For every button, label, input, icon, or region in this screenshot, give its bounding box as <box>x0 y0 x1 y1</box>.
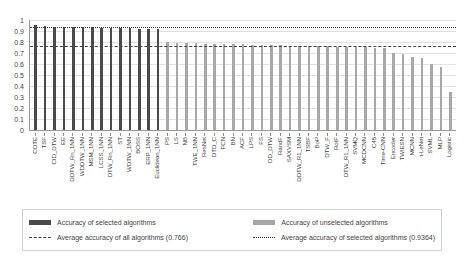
x-axis-tick-label: DTW_F <box>324 137 330 158</box>
bar-slot <box>229 20 238 130</box>
bar-slot <box>351 20 360 130</box>
y-axis-tick-label: 0.2 <box>14 105 24 112</box>
x-axis-tick-mark <box>280 133 281 136</box>
x-axis-tick-mark <box>120 133 121 136</box>
x-axis-tick-label: MCDCNN <box>361 137 367 164</box>
bar-dtw-f <box>326 46 329 130</box>
bar-slot <box>163 20 172 130</box>
x-axis-tick-label: FS <box>258 137 264 145</box>
x-axis-tick-label: WDTW_1NN <box>126 137 132 172</box>
x-axis-slot: Encoder <box>388 133 397 205</box>
bar-slot <box>182 20 191 130</box>
bar-lps <box>251 45 254 130</box>
x-axis-slot: DTW_R1_1NN <box>341 133 350 205</box>
bar-light-swatch-icon <box>253 220 275 225</box>
x-axis-tick-mark <box>110 133 111 136</box>
x-axis-tick-mark <box>242 133 243 136</box>
bar-slot <box>172 20 181 130</box>
bar-slot <box>285 20 294 130</box>
x-axis-tick-label: DDTW_R1_1NN <box>295 137 301 182</box>
bar-c45 <box>374 48 377 131</box>
bar-slot <box>436 20 445 130</box>
x-axis-tick-label: LPS <box>248 137 254 148</box>
average-all-line <box>30 46 456 47</box>
x-axis-slot: ST <box>115 133 124 205</box>
x-axis-slot: DTW_F <box>322 133 331 205</box>
bar-wddtw-1nn <box>82 27 85 130</box>
x-axis-tick-label: ACF <box>239 137 245 149</box>
x-axis-tick-label: SAXVSM <box>286 137 292 162</box>
x-axis-tick-mark <box>63 133 64 136</box>
bar-cid-dtw <box>53 27 56 130</box>
bar-slot <box>257 20 266 130</box>
bar-slot <box>31 20 40 130</box>
x-axis-tick-mark <box>374 133 375 136</box>
y-axis-tick-label: 0.3 <box>14 94 24 101</box>
x-axis-tick-mark <box>35 133 36 136</box>
x-axis-tick-label: DTW_R1_1NN <box>342 137 348 177</box>
x-axis-slot: MCNN <box>407 133 416 205</box>
y-axis-tick-label: 0.7 <box>14 50 24 57</box>
x-axis: COTETSFCID_DTWEEDDTW_Rn_1NNWDDTW_1NNMSM_… <box>29 133 455 205</box>
bar-slot <box>427 20 436 130</box>
bar-slot <box>323 20 332 130</box>
x-axis-tick-label: ERP_1NN <box>145 137 151 165</box>
x-axis-tick-mark <box>138 133 139 136</box>
x-axis-tick-label: RotF <box>333 137 339 150</box>
x-axis-tick-label: TSF <box>41 137 47 148</box>
bar-slot <box>238 20 247 130</box>
x-axis-tick-label: LCSS_1NN <box>97 137 103 168</box>
x-axis-slot: MLP <box>435 133 444 205</box>
x-axis-slot: FS <box>256 133 265 205</box>
bar-randf <box>279 45 282 130</box>
bar-boss <box>138 29 141 130</box>
x-axis-tick-mark <box>336 133 337 136</box>
x-axis-tick-mark <box>430 133 431 136</box>
bar-dtw-rn-1nn <box>110 28 113 130</box>
bar-svml <box>430 64 433 130</box>
legend-row-lines: Average accuracy of all algorithms (0.76… <box>29 230 435 245</box>
bar-acf <box>242 44 245 130</box>
x-axis-tick-label: ST <box>116 137 122 145</box>
x-axis-slot: PS <box>162 133 171 205</box>
x-axis-tick-mark <box>449 133 450 136</box>
bar-dd-dtw <box>270 45 273 130</box>
x-axis-tick-mark <box>72 133 73 136</box>
x-axis-tick-label: WDDTW_1NN <box>79 137 85 176</box>
legend-item-average-selected: Average accuracy of selected algorithms … <box>253 230 435 245</box>
x-axis-tick-label: BOSS <box>135 137 141 154</box>
x-axis-tick-mark <box>176 133 177 136</box>
bar-ddtw-r1-1nn <box>298 46 301 130</box>
bar-slot <box>116 20 125 130</box>
x-axis-tick-label: EE <box>60 137 66 145</box>
bar-encoder <box>392 53 395 130</box>
x-axis-tick-mark <box>364 133 365 136</box>
bar-time-cnn <box>383 48 386 130</box>
x-axis-tick-mark <box>355 133 356 136</box>
bar-slot <box>370 20 379 130</box>
x-axis-tick-label: TWIESN <box>399 137 405 160</box>
x-axis-tick-mark <box>440 133 441 136</box>
x-axis-tick-mark <box>251 133 252 136</box>
x-axis-tick-mark <box>44 133 45 136</box>
bar-tsf <box>44 26 47 130</box>
x-axis-tick-mark <box>317 133 318 136</box>
y-axis-tick-label: 1 <box>20 17 24 24</box>
x-axis-slot: ACF <box>237 133 246 205</box>
bar-fs <box>261 45 264 130</box>
x-axis-tick-mark <box>91 133 92 136</box>
x-axis-slot: LPS <box>247 133 256 205</box>
y-axis-tick-label: 0.6 <box>14 61 24 68</box>
bar-svmq <box>355 47 358 130</box>
y-axis: 10.90.80.70.60.50.40.30.20.10 <box>0 20 26 130</box>
bar-resnet <box>204 44 207 130</box>
x-axis-slot: FCN <box>218 133 227 205</box>
x-axis-slot: SVMQ <box>350 133 359 205</box>
bar-slot <box>408 20 417 130</box>
x-axis-slot: BOSS <box>134 133 143 205</box>
bar-slot <box>446 20 455 130</box>
x-axis-tick-mark <box>223 133 224 136</box>
accuracy-bar-chart: 10.90.80.70.60.50.40.30.20.10 COTETSFCID… <box>0 0 464 256</box>
bar-slot <box>361 20 370 130</box>
bar-logistic <box>449 92 452 131</box>
